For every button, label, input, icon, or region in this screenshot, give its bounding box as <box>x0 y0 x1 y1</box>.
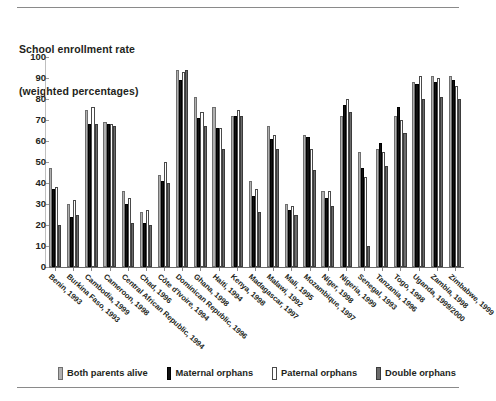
y-tick-mark <box>46 183 49 184</box>
y-tick-mark <box>46 99 49 100</box>
bar <box>367 246 370 267</box>
bar <box>403 133 406 267</box>
x-tick-mark <box>364 268 365 271</box>
y-tick-label: 10 <box>20 241 46 251</box>
y-tick-label: 80 <box>20 94 46 104</box>
legend-label: Paternal orphans <box>281 368 357 378</box>
y-tick-label: 50 <box>20 157 46 167</box>
bar-group <box>158 57 170 267</box>
bar <box>458 99 461 267</box>
y-tick-mark <box>46 162 49 163</box>
bar <box>331 206 334 267</box>
x-tick-mark <box>237 268 238 271</box>
bar-group <box>285 57 297 267</box>
legend-swatch-icon <box>58 367 63 380</box>
bar <box>385 166 388 267</box>
y-tick-label: 70 <box>20 115 46 125</box>
y-tick-label: 30 <box>20 199 46 209</box>
bar <box>222 149 225 267</box>
x-tick-mark <box>146 268 147 271</box>
y-tick-label: 20 <box>20 220 46 230</box>
legend-label: Maternal orphans <box>176 368 254 378</box>
y-tick-mark <box>46 246 49 247</box>
bar-group <box>212 57 224 267</box>
bar-group <box>376 57 388 267</box>
x-tick-mark <box>164 268 165 271</box>
legend-item[interactable]: Double orphans <box>376 367 456 380</box>
x-tick-mark <box>55 268 56 271</box>
bar <box>440 97 443 267</box>
bar <box>349 112 352 267</box>
y-tick-label: 40 <box>20 178 46 188</box>
bar <box>185 70 188 267</box>
y-tick-label: 100 <box>20 52 46 62</box>
x-tick-mark <box>110 268 111 271</box>
bar-group <box>49 57 61 267</box>
x-tick-mark <box>255 268 256 271</box>
bar <box>204 126 207 267</box>
x-tick-mark <box>346 268 347 271</box>
bar-group <box>358 57 370 267</box>
x-tick-mark <box>419 268 420 271</box>
bar-group <box>140 57 152 267</box>
x-tick-mark <box>437 268 438 271</box>
y-tick-label: 0 <box>20 262 46 272</box>
x-tick-mark <box>291 268 292 271</box>
y-tick-mark <box>46 267 49 268</box>
x-tick-mark <box>182 268 183 271</box>
top-divider-rule <box>17 7 459 8</box>
chart-legend: Both parents aliveMaternal orphansPatern… <box>58 366 475 380</box>
bar-group <box>85 57 97 267</box>
bar <box>149 225 152 267</box>
bar-group <box>267 57 279 267</box>
legend-swatch-icon <box>167 367 172 380</box>
bar-group <box>303 57 315 267</box>
bar-group <box>103 57 115 267</box>
bar <box>76 215 79 268</box>
x-tick-mark <box>328 268 329 271</box>
bar <box>258 212 261 267</box>
legend-label: Double orphans <box>385 368 456 378</box>
x-tick-mark <box>310 268 311 271</box>
bar <box>313 170 316 267</box>
bar-group <box>394 57 406 267</box>
y-tick-mark <box>46 120 49 121</box>
y-tick-label: 90 <box>20 73 46 83</box>
x-tick-mark <box>200 268 201 271</box>
x-tick-mark <box>91 268 92 271</box>
bar <box>422 99 425 267</box>
bar-group <box>249 57 261 267</box>
x-tick-mark <box>219 268 220 271</box>
legend-item[interactable]: Maternal orphans <box>167 367 254 380</box>
x-tick-mark <box>400 268 401 271</box>
x-tick-mark <box>382 268 383 271</box>
x-tick-mark <box>73 268 74 271</box>
bar <box>167 183 170 267</box>
bar <box>131 223 134 267</box>
plot-area <box>46 57 464 267</box>
bar-group <box>412 57 424 267</box>
legend-item[interactable]: Both parents alive <box>58 367 148 380</box>
bar <box>240 116 243 267</box>
bar <box>113 126 116 267</box>
y-tick-mark <box>46 57 49 58</box>
y-tick-label: 60 <box>20 136 46 146</box>
bar-group <box>176 57 188 267</box>
bar-group <box>194 57 206 267</box>
legend-label: Both parents alive <box>67 368 148 378</box>
x-tick-mark <box>273 268 274 271</box>
y-axis: 0102030405060708090100 <box>14 57 46 267</box>
legend-swatch-icon <box>376 367 381 380</box>
y-tick-mark <box>46 141 49 142</box>
bar <box>276 149 279 267</box>
legend-swatch-icon <box>272 367 277 380</box>
bar-group <box>231 57 243 267</box>
bar-group <box>431 57 443 267</box>
bar-group <box>340 57 352 267</box>
x-tick-mark <box>128 268 129 271</box>
x-tick-mark <box>455 268 456 271</box>
y-tick-mark <box>46 225 49 226</box>
bottom-divider-rule <box>17 387 459 388</box>
legend-item[interactable]: Paternal orphans <box>272 367 357 380</box>
